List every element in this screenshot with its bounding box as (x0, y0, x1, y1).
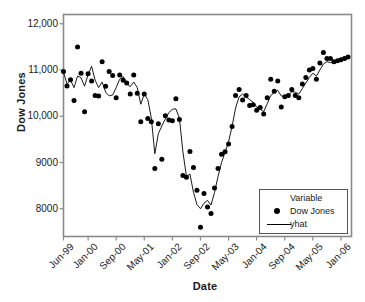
data-point (303, 75, 308, 80)
data-point (279, 105, 284, 110)
data-point (240, 98, 245, 103)
y-tick-label: 11,000 (0, 65, 58, 75)
data-point (194, 188, 199, 193)
y-axis-title: Dow Jones (15, 47, 27, 157)
data-point (68, 77, 73, 82)
data-point (114, 95, 119, 100)
data-point (61, 69, 66, 74)
data-point (209, 211, 214, 216)
y-tick-label: 9000 (0, 158, 58, 168)
y-tick-label: 10,000 (0, 111, 58, 121)
data-point (75, 44, 80, 49)
data-point (86, 71, 91, 76)
data-point (191, 165, 196, 170)
data-point (237, 87, 242, 92)
data-point (261, 111, 266, 116)
data-point (268, 77, 273, 82)
data-point (296, 95, 301, 100)
data-point (138, 119, 143, 124)
data-point (184, 175, 189, 180)
data-point (103, 84, 108, 89)
data-point (173, 96, 178, 101)
data-point (96, 93, 101, 98)
data-point (135, 91, 140, 96)
data-point (300, 81, 305, 86)
legend-title: Variable (290, 193, 322, 203)
data-point (156, 121, 161, 126)
data-point (110, 73, 115, 78)
data-point (149, 119, 154, 124)
data-point (198, 225, 203, 230)
data-point (289, 87, 294, 92)
y-tick-label: 12,000 (0, 19, 58, 29)
chart-legend: Variable Dow Jones yhat (259, 189, 348, 234)
data-point (187, 149, 192, 154)
data-point (258, 105, 263, 110)
y-tick-label: 8000 (0, 204, 58, 214)
data-point (286, 93, 291, 98)
data-point (314, 77, 319, 82)
data-point (205, 204, 210, 209)
line-marker-icon (266, 218, 290, 230)
data-point (82, 109, 87, 114)
data-point (107, 69, 112, 74)
data-point (345, 55, 350, 60)
data-point (163, 113, 168, 118)
data-point (317, 61, 322, 66)
legend-entry-yhat: yhat (260, 218, 347, 231)
data-point (100, 59, 105, 64)
dow-jones-time-series-chart: 12,00011,00010,00090008000 Jun-99Jan-00S… (0, 0, 365, 302)
legend-entry-dow-jones: Dow Jones (260, 205, 347, 218)
data-point (223, 149, 228, 154)
x-axis-title: Date (150, 280, 260, 292)
data-point (72, 98, 77, 103)
filled-circle-marker-icon (266, 205, 290, 217)
data-point (201, 191, 206, 196)
data-point (275, 79, 280, 84)
legend-label-dow-jones: Dow Jones (290, 206, 335, 216)
yhat-fit-line (64, 58, 348, 208)
data-point (152, 166, 157, 171)
data-point (170, 118, 175, 123)
data-point (321, 50, 326, 55)
data-point (251, 102, 256, 107)
legend-label-yhat: yhat (290, 219, 307, 229)
data-point (212, 185, 217, 190)
data-point (159, 157, 164, 162)
data-point (124, 80, 129, 85)
data-point (177, 117, 182, 122)
data-point (310, 66, 315, 71)
data-point (131, 73, 136, 78)
data-point (244, 93, 249, 98)
data-point (226, 142, 231, 147)
data-point (128, 92, 133, 97)
data-point (142, 92, 147, 97)
data-point (117, 73, 122, 78)
data-point (265, 95, 270, 100)
data-point (216, 166, 221, 171)
data-point (65, 83, 70, 88)
data-point (230, 124, 235, 129)
data-point (233, 93, 238, 98)
data-point (272, 89, 277, 94)
data-point (89, 79, 94, 84)
data-point (79, 71, 84, 76)
